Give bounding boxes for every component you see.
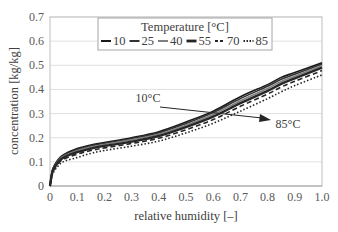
annotation-85c: 85°C: [276, 117, 301, 131]
y-axis-ticks: 00.10.20.30.40.50.60.7: [29, 10, 44, 193]
y-tick-label: 0.4: [29, 82, 44, 96]
x-tick-label: 1.0: [315, 190, 330, 204]
y-tick-label: 0.1: [29, 155, 44, 169]
x-tick-label: 0.6: [206, 190, 221, 204]
x-tick-label: 0.1: [70, 190, 85, 204]
annotation-10c: 10°C: [136, 91, 161, 105]
x-tick-label: 0: [47, 190, 53, 204]
x-axis-title: relative humidity [–]: [134, 209, 237, 223]
y-tick-label: 0: [38, 179, 44, 193]
legend-label-40: 40: [170, 34, 183, 48]
legend-label-10: 10: [113, 34, 126, 48]
y-tick-label: 0.3: [29, 107, 44, 121]
y-tick-label: 0.2: [29, 131, 44, 145]
y-tick-label: 0.7: [29, 10, 44, 24]
legend-title: Temperature [°C]: [141, 20, 229, 34]
legend: Temperature [°C] 102540557085: [98, 18, 272, 50]
x-axis-ticks: 00.10.20.30.40.50.60.70.80.91.0: [47, 190, 330, 204]
legend-label-55: 55: [199, 34, 212, 48]
legend-label-85: 85: [256, 34, 269, 48]
y-tick-label: 0.5: [29, 58, 44, 72]
legend-label-25: 25: [142, 34, 155, 48]
x-tick-label: 0.4: [151, 190, 166, 204]
x-tick-label: 0.5: [179, 190, 194, 204]
chart: 00.10.20.30.40.50.60.7 00.10.20.30.40.50…: [0, 0, 338, 232]
legend-label-70: 70: [227, 34, 240, 48]
y-axis-title: concentration [kg/kg]: [7, 47, 21, 155]
x-tick-label: 0.3: [124, 190, 139, 204]
x-tick-label: 0.2: [97, 190, 112, 204]
x-tick-label: 0.7: [233, 190, 248, 204]
x-tick-label: 0.9: [287, 190, 302, 204]
x-tick-label: 0.8: [260, 190, 275, 204]
y-tick-label: 0.6: [29, 34, 44, 48]
